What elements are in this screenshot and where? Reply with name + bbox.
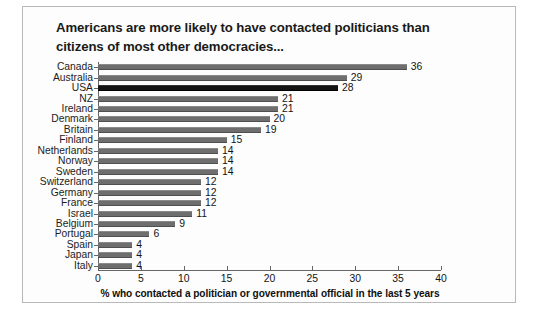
bar-value-label: 14 [222,155,234,166]
x-axis-tick [184,266,185,270]
bar-value-label: 14 [222,145,234,156]
bar-australia [98,75,347,81]
x-tick-label: 10 [169,273,199,285]
category-label: Finland [59,134,93,145]
y-axis-tick [94,67,98,68]
x-axis-tick [227,266,228,270]
bar-israel [98,211,192,217]
y-axis-tick [94,140,98,141]
x-tick-label: 25 [297,273,327,285]
category-label: Israel [68,208,93,219]
x-tick-label: 40 [426,273,456,285]
bar-italy [98,263,132,269]
bar-value-label: 14 [222,166,234,177]
bar-value-label: 12 [205,176,217,187]
y-axis-tick [94,161,98,162]
y-axis-tick [94,214,98,215]
y-axis-tick [94,151,98,152]
chart-frame: Americans are more likely to have contac… [22,6,516,303]
category-label: Canada [57,61,93,72]
y-axis-tick [94,119,98,120]
category-label: Australia [53,72,93,83]
y-axis-tick [94,130,98,131]
y-axis-tick [94,203,98,204]
y-axis-line [98,62,99,271]
category-label: Germany [51,187,93,198]
bar-value-label: 28 [342,82,354,93]
x-tick-label: 0 [83,273,113,285]
bar-norway [98,158,218,164]
bar-value-label: 4 [136,249,142,260]
x-tick-label: 20 [255,273,285,285]
category-label: Spain [67,239,93,250]
x-axis-tick [355,266,356,270]
category-label: Japan [65,249,93,260]
bar-value-label: 4 [136,239,142,250]
bar-chart-plot-area: 36292821212019151414141212121196444 Cana… [23,7,517,304]
x-axis-tick [98,266,99,270]
x-axis-line [98,270,441,271]
category-label: France [61,197,93,208]
y-axis-tick [94,193,98,194]
bar-belgium [98,221,175,227]
category-label: NZ [79,93,93,104]
bar-value-label: 21 [282,93,294,104]
x-axis-tick [398,266,399,270]
bar-nz [98,96,278,102]
category-label: Sweden [56,166,93,177]
x-axis-tick [270,266,271,270]
x-axis-tick [141,266,142,270]
y-axis-tick [94,99,98,100]
category-label: USA [72,82,93,93]
x-tick-label: 15 [212,273,242,285]
bar-spain [98,242,132,248]
bar-denmark [98,116,270,122]
bar-switzerland [98,179,201,185]
x-axis-tick [441,266,442,270]
bar-value-label: 21 [282,103,294,114]
x-axis-title: % who contacted a politician or governme… [23,288,517,299]
category-label: Denmark [51,113,93,124]
bar-value-label: 11 [196,208,207,219]
bar-value-label: 15 [231,134,243,145]
category-label: Ireland [62,103,93,114]
bar-value-label: 12 [205,187,217,198]
y-axis-tick [94,88,98,89]
y-axis-tick [94,255,98,256]
category-label: Netherlands [37,145,93,156]
bar-value-label: 6 [153,228,159,239]
category-label: Switzerland [40,176,93,187]
bar-britain [98,127,261,133]
bar-sweden [98,169,218,175]
bar-usa [98,85,338,91]
x-tick-label: 30 [340,273,370,285]
category-label: Italy [74,260,93,271]
bar-value-label: 12 [205,197,217,208]
category-label: Britain [64,124,93,135]
x-tick-label: 35 [383,273,413,285]
bar-portugal [98,231,149,237]
category-label: Belgium [56,218,93,229]
bar-value-label: 9 [179,218,185,229]
category-label: Portugal [55,228,93,239]
bar-value-label: 19 [265,124,277,135]
category-label: Norway [58,155,93,166]
bar-france [98,200,201,206]
x-axis-tick [312,266,313,270]
y-axis-tick [94,182,98,183]
y-axis-tick [94,109,98,110]
bar-canada [98,64,407,70]
y-axis-tick [94,78,98,79]
y-axis-tick [94,172,98,173]
bar-netherlands [98,148,218,154]
y-axis-tick [94,245,98,246]
bar-germany [98,190,201,196]
bar-value-label: 36 [411,61,423,72]
bar-japan [98,252,132,258]
bar-ireland [98,106,278,112]
bar-value-label: 29 [351,72,363,83]
y-axis-tick [94,234,98,235]
bar-value-label: 20 [274,113,286,124]
bar-finland [98,137,227,143]
y-axis-tick [94,224,98,225]
